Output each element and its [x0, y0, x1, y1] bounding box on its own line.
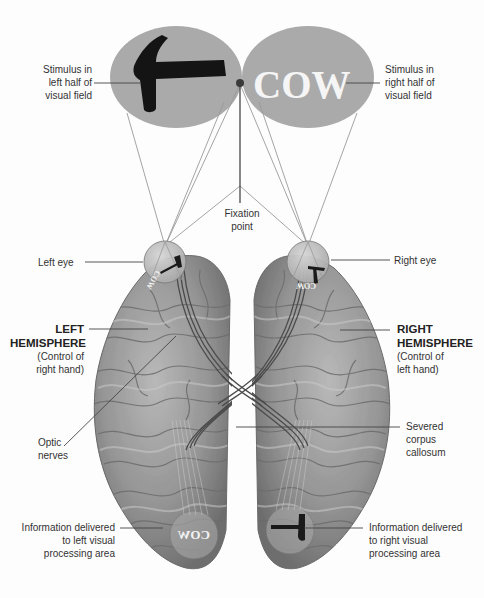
label-right-hemisphere: RIGHT HEMISPHERE (Control of left hand): [397, 322, 473, 376]
cow-word: COW: [253, 63, 351, 106]
label-left-eye: Left eye: [38, 256, 74, 269]
label-stimulus-right: Stimulus in right half of visual field: [385, 63, 434, 102]
label-left-hemisphere: LEFT HEMISPHERE (Control of right hand): [10, 322, 84, 376]
label-stimulus-left: Stimulus in left half of visual field: [40, 63, 92, 102]
longitudinal-fissure: [232, 258, 252, 578]
label-fixation-point: Fixation point: [220, 207, 264, 233]
label-optic-nerves: Optic nerves: [38, 436, 68, 462]
label-left-info: Information delivered to left visual pro…: [0, 521, 115, 560]
label-right-info: Information delivered to right visual pr…: [369, 521, 462, 560]
left-visual-area-cow-mirrored: COW: [178, 527, 211, 542]
fixation-point-dot: [236, 79, 244, 87]
label-right-eye: Right eye: [394, 254, 436, 267]
right-eye-cow-inverted: COW: [296, 281, 316, 290]
label-corpus-callosum: Severed corpus callosum: [406, 420, 445, 459]
